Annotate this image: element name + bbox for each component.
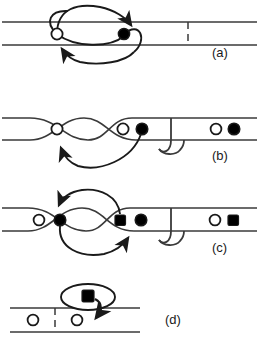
panel-b-label: (b) [212,148,228,163]
panel-c-token-open-circle-1 [34,215,45,226]
panel-b: (b) [2,118,257,168]
schematic-diagram: (a) (b) [0,0,260,348]
panel-d-token-open-circle-1 [28,315,39,326]
panel-c-token-solid-circle-1 [54,214,66,226]
panel-c: (c) [2,190,257,255]
panel-b-token-solid-circle-1 [136,123,148,135]
figure-container: (a) (b) [0,0,260,348]
panel-a-token-solid-circle [118,28,129,39]
panel-a: (a) [2,6,257,64]
panel-b-token-open-circle-2 [117,123,128,134]
panel-d-label: (d) [165,312,181,327]
panel-b-token-solid-circle-2 [228,123,240,135]
panel-a-token-open-circle [51,28,62,39]
panel-b-gap-hook [159,118,171,152]
panel-d: (d) [10,284,181,332]
panel-d-token-open-circle-2 [72,315,83,326]
panel-c-token-solid-square-2 [228,215,239,226]
panel-c-gap-hook [159,208,171,243]
panel-c-label: (c) [212,240,227,255]
panel-a-arrow-backward [62,49,134,64]
panel-c-token-open-circle-2 [210,215,221,226]
panel-a-label: (a) [212,45,228,60]
panel-a-lobe-lower-left [57,34,124,45]
panel-b-token-open-circle-1 [51,123,62,134]
panel-c-token-solid-circle-2 [135,214,147,226]
panel-c-token-solid-square-1 [115,215,126,226]
panel-b-token-open-circle-3 [211,124,222,135]
panel-d-token-solid-square [82,290,94,302]
